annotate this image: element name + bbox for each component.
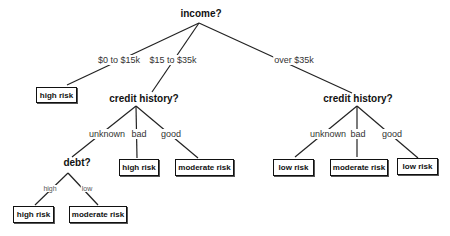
edge-income-low: [67, 23, 199, 85]
edge-label-cr-unknown: unknown: [309, 129, 347, 139]
tree-edges: [0, 0, 450, 236]
edge-label-debt-low: low: [81, 185, 94, 192]
leaf-debt-low-moderate-risk: moderate risk: [69, 206, 127, 223]
edge-label-debt-high: high: [42, 185, 57, 192]
edge-label-cr-bad: bad: [349, 129, 366, 139]
leaf-debt-high-high-risk: high risk: [13, 206, 54, 223]
edge-label-cl-unknown: unknown: [88, 129, 126, 139]
edge-label-income-mid: $15 to $35k: [148, 55, 197, 65]
edge-label-cl-good: good: [160, 129, 182, 139]
leaf-cr-good-low-risk: low risk: [397, 158, 438, 175]
leaf-cl-bad-high-risk: high risk: [119, 159, 159, 176]
leaf-income-low-high-risk: high risk: [36, 87, 77, 103]
edge-label-income-high: over $35k: [273, 55, 315, 65]
edge-label-cr-good: good: [381, 129, 403, 139]
node-debt: debt?: [63, 157, 90, 168]
leaf-cr-bad-moderate-risk: moderate risk: [330, 159, 388, 176]
edge-label-cl-bad: bad: [130, 129, 147, 139]
leaf-cr-unknown-low-risk: low risk: [273, 159, 314, 176]
node-income: income?: [180, 8, 221, 19]
leaf-cl-good-moderate-risk: moderate risk: [175, 159, 234, 176]
node-credit-history-left: credit history?: [109, 93, 178, 104]
node-credit-history-right: credit history?: [323, 93, 392, 104]
edge-label-income-low: $0 to $15k: [97, 55, 141, 65]
